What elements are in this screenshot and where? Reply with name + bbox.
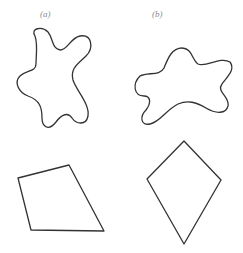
figure-canvas	[0, 0, 243, 253]
blob-a	[17, 29, 91, 128]
blob-b	[135, 48, 232, 124]
kite-b	[147, 141, 221, 244]
quadrilateral-a	[18, 165, 104, 231]
